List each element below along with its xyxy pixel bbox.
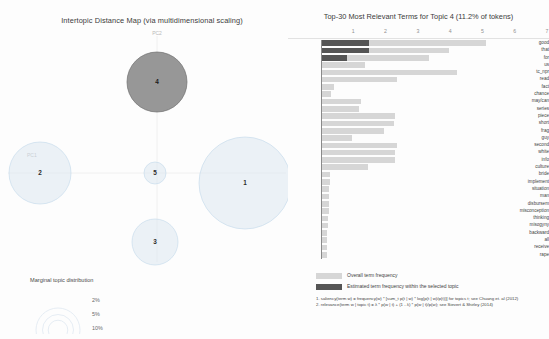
term-bar-row[interactable]: read (288, 76, 549, 83)
term-bar-row[interactable]: misogyny (288, 222, 549, 229)
term-bar-track (321, 40, 547, 46)
size-label-2pct: 2% (92, 297, 100, 303)
legend-row-overall: Overall term frequency (316, 272, 546, 281)
bar-overall-frequency (321, 62, 365, 68)
term-bar-row[interactable]: guy (288, 135, 549, 142)
term-bar-track (321, 172, 547, 178)
topic-bubble-label-4: 4 (155, 78, 159, 85)
term-bar-row[interactable]: that (288, 47, 549, 54)
pyldavis-visualization: Intertopic Distance Map (via multidimens… (0, 0, 549, 339)
bar-overall-frequency (321, 157, 395, 163)
term-bar-track (321, 106, 547, 112)
term-bar-row[interactable]: misconception (288, 208, 549, 215)
bar-overall-frequency (321, 121, 394, 127)
term-bar-row[interactable]: receive (288, 244, 549, 251)
bar-axis-ticks: 1234567 (288, 28, 549, 38)
term-bar-row[interactable]: backward (288, 230, 549, 237)
bar-within-topic-frequency (321, 48, 369, 54)
bar-chart-legend: Overall term frequency Estimated term fr… (316, 272, 546, 294)
axis-tick-2: 2 (384, 28, 387, 34)
term-bar-track (321, 237, 547, 243)
term-bar-track (321, 230, 547, 236)
term-bar-track (321, 186, 547, 192)
term-bar-row[interactable]: second (288, 142, 549, 149)
legend-row-within: Estimated term frequency within the sele… (316, 283, 546, 292)
term-bar-row[interactable]: short (288, 120, 549, 127)
bar-overall-frequency (321, 150, 395, 156)
term-bar-row[interactable]: all (288, 237, 549, 244)
term-bar-track (321, 252, 547, 258)
term-bar-row[interactable]: chance (288, 91, 549, 98)
intertopic-distance-panel: Intertopic Distance Map (via multidimens… (0, 0, 288, 339)
term-bar-track (321, 70, 547, 76)
bar-overall-frequency (321, 143, 397, 149)
bar-overall-frequency (321, 223, 328, 229)
term-bar-row[interactable]: info (288, 157, 549, 164)
axis-tick-1: 1 (352, 28, 355, 34)
term-bar-track (321, 164, 547, 170)
bar-overall-frequency (321, 128, 384, 134)
term-bar-track (321, 179, 547, 185)
term-bar-track (321, 208, 547, 214)
size-label-5pct: 5% (92, 311, 100, 317)
bar-overall-frequency (321, 70, 457, 76)
relevance-formula: 2. relevance(term w | topic t) = λ * p(w… (316, 302, 493, 308)
bar-within-topic-frequency (321, 40, 369, 46)
legend-label-within: Estimated term frequency within the sele… (347, 283, 458, 290)
bar-overall-frequency (321, 77, 397, 83)
term-bar-track (321, 201, 547, 207)
axis-tick-5: 5 (481, 28, 484, 34)
term-bar-row[interactable]: piece (288, 113, 549, 120)
term-bar-track (321, 113, 547, 119)
term-bar-track (321, 216, 547, 222)
marginal-topic-distribution-label: Marginal topic distribution (30, 277, 93, 283)
bar-overall-frequency (321, 84, 334, 90)
term-bar-track (321, 91, 547, 97)
bar-overall-frequency (321, 201, 329, 207)
axis-tick-4: 4 (449, 28, 452, 34)
term-bar-row[interactable]: rape (288, 252, 549, 259)
term-bar-list[interactable]: goodthatforustc_nprreadfactchancemay/can… (288, 40, 549, 259)
term-bar-row[interactable]: tc_npr (288, 69, 549, 76)
term-bar-row[interactable]: us (288, 62, 549, 69)
bar-overall-frequency (321, 99, 361, 105)
size-ref-circle-5 (43, 315, 74, 335)
term-bar-track (321, 62, 547, 68)
bar-overall-frequency (321, 106, 359, 112)
term-bar-row[interactable]: for (288, 55, 549, 62)
term-bar-row[interactable]: implement (288, 179, 549, 186)
term-bar-row[interactable]: thinking (288, 215, 549, 222)
term-bar-row[interactable]: man (288, 193, 549, 200)
term-bar-row[interactable]: fact (288, 84, 549, 91)
relevant-terms-panel: Top-30 Most Relevant Terms for Topic 4 (… (288, 0, 549, 339)
term-bar-row[interactable]: white (288, 149, 549, 156)
bar-overall-frequency (321, 91, 331, 97)
bar-overall-frequency (321, 194, 329, 200)
term-bar-track (321, 48, 547, 54)
size-label-10pct: 10% (92, 325, 103, 331)
term-bar-track (321, 245, 547, 251)
term-bar-row[interactable]: culture (288, 164, 549, 171)
term-bar-row[interactable]: frag (288, 128, 549, 135)
topic-bubble-label-2: 2 (38, 169, 42, 176)
bar-overall-frequency (321, 208, 329, 214)
term-bar-track (321, 77, 547, 83)
legend-swatch-overall (316, 273, 342, 279)
term-bar-track (321, 150, 547, 156)
bar-overall-frequency (321, 186, 329, 192)
term-bar-track (321, 128, 547, 134)
term-bar-row[interactable]: bride (288, 171, 549, 178)
topic-bubble-layer[interactable]: 12345 (9, 52, 288, 265)
term-bar-row[interactable]: series (288, 106, 549, 113)
bar-overall-frequency (321, 164, 368, 170)
axis-tick-3: 3 (416, 28, 419, 34)
bar-within-topic-frequency (321, 55, 347, 61)
topic-bubble-label-1: 1 (243, 179, 247, 186)
bar-baseline (321, 40, 322, 259)
term-bar-row[interactable]: disbursem (288, 201, 549, 208)
bar-overall-frequency (321, 179, 330, 185)
term-bar-row[interactable]: situation (288, 186, 549, 193)
term-bar-row[interactable]: may/can (288, 98, 549, 105)
term-bar-row[interactable]: good (288, 40, 549, 47)
topic-bubble-label-3: 3 (153, 238, 157, 245)
